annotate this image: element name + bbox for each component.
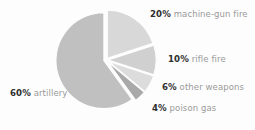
pie-chart-svg xyxy=(0,0,255,130)
pie-label-artillery: 60% artillery xyxy=(10,89,67,98)
pie-label-rifle-fire-percent: 10% xyxy=(168,54,189,64)
pie-chart-figure: 20% machine-gun fire 10% rifle fire 6% o… xyxy=(0,0,255,130)
pie-label-poison-gas-percent: 4% xyxy=(152,103,167,113)
pie-label-artillery-text: artillery xyxy=(34,88,68,98)
pie-label-other-weapons-percent: 6% xyxy=(162,82,177,92)
pie-label-rifle-fire: 10% rifle fire xyxy=(168,55,226,64)
pie-label-artillery-percent: 60% xyxy=(10,88,31,98)
pie-label-poison-gas-text: poison gas xyxy=(170,103,217,113)
pie-label-other-weapons: 6% other weapons xyxy=(162,83,244,92)
pie-label-machine-gun-fire-text: machine-gun fire xyxy=(174,9,248,19)
pie-label-machine-gun-fire: 20% machine-gun fire xyxy=(150,10,248,19)
pie-label-poison-gas: 4% poison gas xyxy=(152,104,216,113)
pie-label-other-weapons-text: other weapons xyxy=(180,82,244,92)
pie-label-rifle-fire-text: rifle fire xyxy=(192,54,226,64)
pie-label-machine-gun-fire-percent: 20% xyxy=(150,9,171,19)
pie-slice-group xyxy=(56,10,156,108)
